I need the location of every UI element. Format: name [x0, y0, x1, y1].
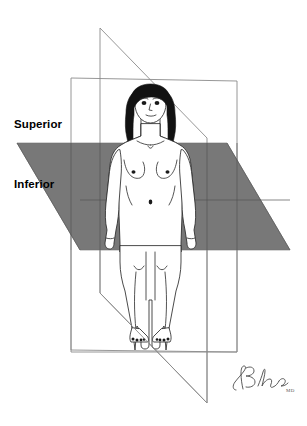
- artist-signature: [233, 366, 288, 390]
- eye-left: [142, 101, 147, 105]
- anatomical-plane-diagram: Superior Inferior MD: [0, 0, 307, 426]
- eye-right: [155, 101, 160, 105]
- nipple-left-front: [132, 170, 136, 174]
- diagram-canvas: [0, 0, 307, 426]
- signature-suffix: MD: [286, 388, 294, 393]
- label-inferior: Inferior: [14, 179, 54, 191]
- nipple-right-front: [166, 170, 170, 174]
- navel-front: [149, 200, 153, 205]
- pelvis-and-legs: [120, 246, 181, 350]
- label-superior: Superior: [14, 119, 62, 131]
